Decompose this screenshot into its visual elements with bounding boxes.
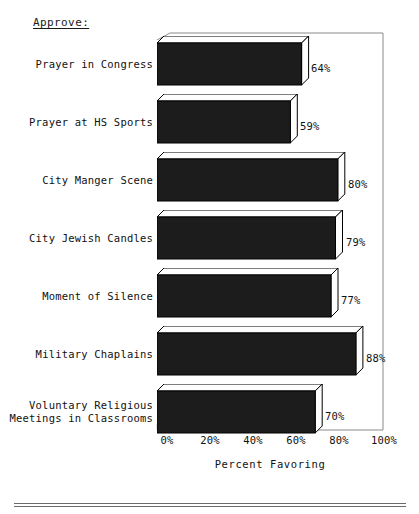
bar-label: Voluntary Religious Meetings in Classroo… [10,399,153,425]
bar-value-label: 70% [325,410,345,422]
bar-group[interactable] [157,384,397,440]
x-tick-label: 20% [200,434,220,446]
chart-title: Approve: [33,16,89,29]
bar-label: Prayer at HS Sports [29,116,153,129]
bar-value-label: 59% [300,120,320,132]
bar-value-label: 64% [311,62,331,74]
x-tick-label: 80% [329,434,349,446]
footer-divider [14,503,406,507]
x-axis-title: Percent Favoring [215,458,326,470]
bar-label: Prayer in Congress [36,58,153,71]
bar-label: Military Chaplains [36,348,153,361]
bar-label: City Jewish Candles [29,232,153,245]
bar-group[interactable] [157,326,397,382]
bar-value-label: 88% [366,352,386,364]
bar-value-label: 80% [348,178,368,190]
chart-page: Approve: Prayer in Congress 64% [0,0,419,514]
bar-value-label: 79% [346,236,366,248]
bar-group[interactable] [157,36,397,92]
x-tick-label: 60% [286,434,306,446]
bar-group[interactable] [157,94,397,150]
bar-label: City Manger Scene [42,174,153,187]
x-tick-label: 100% [371,434,397,446]
x-tick-label: 0% [160,434,173,446]
bar-label: Moment of Silence [42,290,153,303]
bar-value-label: 77% [341,294,361,306]
x-tick-label: 40% [243,434,263,446]
bar-group[interactable] [157,268,397,324]
